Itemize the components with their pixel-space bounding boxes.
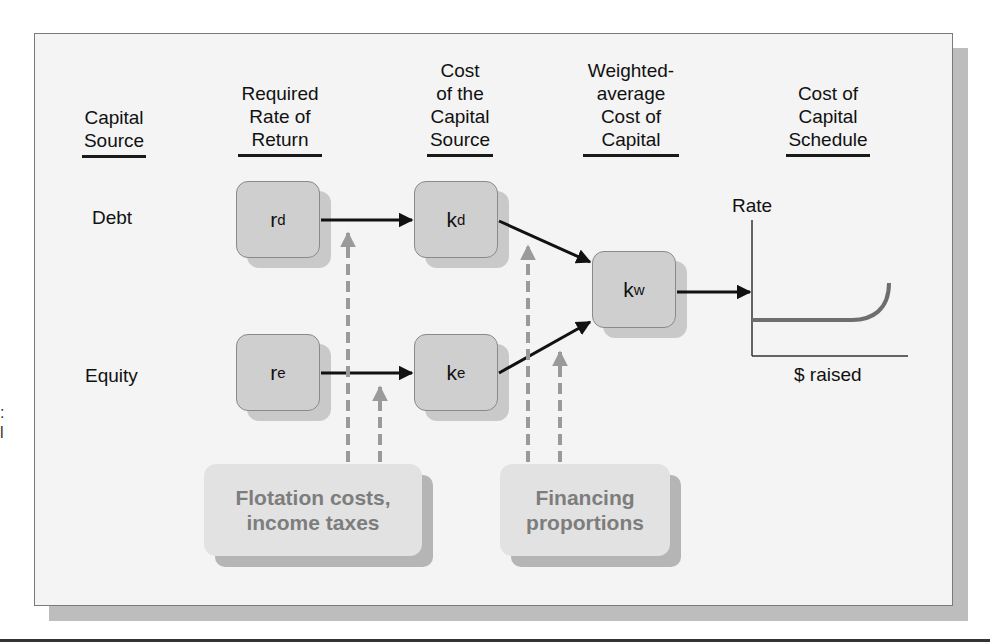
node-re: re bbox=[236, 334, 320, 411]
header-underline bbox=[427, 154, 493, 157]
note-financing-proportions: Financing proportions bbox=[500, 464, 670, 556]
note-face: Flotation costs, income taxes bbox=[204, 464, 422, 556]
margin-mark: : bbox=[0, 404, 4, 422]
note-flotation-costs: Flotation costs, income taxes bbox=[204, 464, 422, 556]
header-underline bbox=[82, 155, 146, 158]
schedule-y-axis-label: Rate bbox=[732, 195, 772, 217]
node-face: ke bbox=[414, 334, 498, 411]
header-underline bbox=[786, 154, 870, 157]
header-underline bbox=[583, 154, 679, 157]
row-label-equity: Equity bbox=[85, 365, 138, 387]
header-capital-source: Capital Source bbox=[72, 106, 156, 158]
node-face: kw bbox=[592, 251, 676, 328]
page-rule bbox=[0, 639, 990, 642]
node-ke: ke bbox=[414, 334, 498, 411]
node-face: kd bbox=[414, 181, 498, 258]
header-schedule: Cost of Capital Schedule bbox=[778, 82, 878, 157]
schedule-x-axis-label: $ raised bbox=[794, 364, 862, 386]
node-kw: kw bbox=[592, 251, 676, 328]
row-label-debt: Debt bbox=[92, 207, 132, 229]
margin-mark: l bbox=[0, 424, 4, 442]
node-face: rd bbox=[236, 181, 320, 258]
note-face: Financing proportions bbox=[500, 464, 670, 556]
header-cost-of-source: Cost of the Capital Source bbox=[418, 59, 502, 157]
node-rd: rd bbox=[236, 181, 320, 258]
header-wacc: Weighted- average Cost of Capital bbox=[576, 59, 686, 157]
header-underline bbox=[238, 154, 322, 157]
node-kd: kd bbox=[414, 181, 498, 258]
node-face: re bbox=[236, 334, 320, 411]
header-required-rate: Required Rate of Return bbox=[232, 82, 328, 157]
